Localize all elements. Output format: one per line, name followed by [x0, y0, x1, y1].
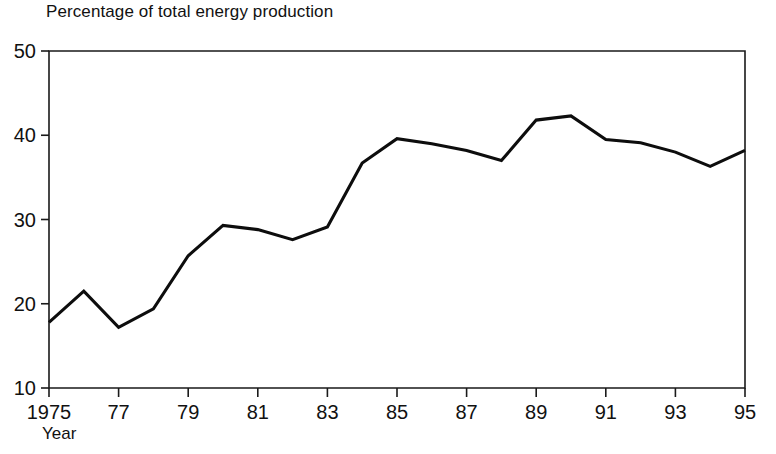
y-tick-label: 30: [14, 209, 36, 231]
x-tick-label: 1975: [27, 401, 72, 423]
y-tick-label: 10: [14, 377, 36, 399]
x-tick-label: 79: [177, 401, 199, 423]
x-tick-label: 83: [316, 401, 338, 423]
x-tick-label: 93: [664, 401, 686, 423]
plot-frame: [49, 51, 745, 388]
x-tick-label: 77: [107, 401, 129, 423]
chart-container: Percentage of total energy production 10…: [0, 0, 776, 454]
data-series-group: [49, 116, 745, 327]
x-tick-label: 91: [595, 401, 617, 423]
chart-plot-svg: 1020304050 197577798183858789919395: [0, 0, 776, 454]
x-tick-label: 81: [247, 401, 269, 423]
x-tick-label: 89: [525, 401, 547, 423]
y-tick-label: 40: [14, 124, 36, 146]
x-axis-label: Year: [42, 424, 76, 444]
x-axis-tick-group: 197577798183858789919395: [27, 388, 756, 423]
x-tick-label: 95: [734, 401, 756, 423]
x-tick-label: 87: [455, 401, 477, 423]
y-axis-tick-group: 1020304050: [14, 40, 49, 399]
x-tick-label: 85: [386, 401, 408, 423]
plot-frame-box: [49, 51, 745, 388]
data-series-line: [49, 116, 745, 327]
y-tick-label: 50: [14, 40, 36, 62]
y-tick-label: 20: [14, 293, 36, 315]
